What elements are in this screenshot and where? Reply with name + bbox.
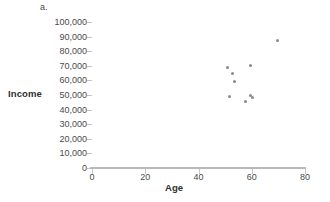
data-point [231, 72, 234, 75]
y-tick-label: 90,000 [27, 32, 87, 42]
y-tick-label: 40,000 [27, 105, 87, 115]
y-tick-label: 70,000 [27, 61, 87, 71]
x-axis-title: Age [0, 182, 330, 193]
panel-letter: a. [40, 2, 48, 13]
data-point [244, 100, 247, 103]
data-point [249, 64, 252, 67]
data-point [276, 39, 279, 42]
y-tick-label: 30,000 [27, 119, 87, 129]
data-point [233, 80, 236, 83]
y-tick-label: 60,000 [27, 75, 87, 85]
data-point [251, 96, 254, 99]
y-tick-label: 20,000 [27, 134, 87, 144]
data-point [226, 66, 229, 69]
y-tick-label: 80,000 [27, 46, 87, 56]
y-tick-label: 100,000 [27, 17, 87, 27]
scatter-plot-figure: a. Income 010,00020,00030,00040,00050,00… [0, 0, 330, 202]
x-axis-title-text: Age [165, 182, 183, 193]
y-tick-label: 50,000 [27, 90, 87, 100]
y-tick-label: 10,000 [27, 148, 87, 158]
data-point [228, 95, 231, 98]
plot-area [92, 22, 305, 168]
